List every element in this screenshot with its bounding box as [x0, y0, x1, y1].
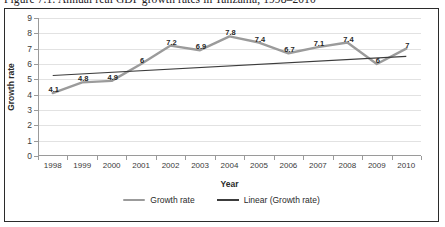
x-axis-tick-label: 2002	[162, 161, 180, 170]
x-axis-tick	[333, 156, 334, 160]
x-axis-tick-label: 2006	[280, 161, 298, 170]
legend-label-growth-rate: Growth rate	[150, 195, 194, 205]
x-axis-tick	[97, 156, 98, 160]
data-label: 4.9	[107, 73, 117, 82]
legend-swatch-linear-icon	[217, 199, 239, 200]
x-axis-tick-label: 2010	[397, 161, 415, 170]
y-axis-tick-label: 9	[27, 13, 32, 23]
growth-rate-line	[53, 36, 407, 93]
y-axis-tick-label: 7	[27, 44, 32, 54]
x-axis-tick	[392, 156, 393, 160]
x-axis-tick	[67, 156, 68, 160]
data-label: 6.7	[284, 45, 294, 54]
x-axis-tick-label: 1998	[44, 161, 62, 170]
data-label: 6	[376, 56, 380, 65]
x-axis-tick-label: 2005	[250, 161, 268, 170]
y-axis-tick-label: 1	[27, 136, 32, 146]
trend-line	[53, 56, 407, 75]
data-label: 4.1	[49, 85, 59, 94]
x-axis-title: Year	[38, 179, 421, 189]
data-label: 7.1	[314, 39, 324, 48]
x-axis-tick-label: 2007	[309, 161, 327, 170]
plot-area: 0123456789 19981999200020012002200320042…	[38, 18, 421, 156]
x-axis-tick	[38, 156, 39, 160]
x-axis-tick-label: 2001	[132, 161, 150, 170]
plot-inner: 0123456789 19981999200020012002200320042…	[38, 18, 421, 156]
legend-item-growth-rate[interactable]: Growth rate	[123, 195, 194, 205]
y-axis-tick-label: 4	[27, 90, 32, 100]
x-axis-tick-label: 1999	[73, 161, 91, 170]
x-axis-tick	[156, 156, 157, 160]
y-axis-tick-label: 2	[27, 120, 32, 130]
chart-frame: Growth rate Year 0123456789 199819992000…	[4, 8, 439, 222]
data-label: 7.2	[166, 38, 176, 47]
legend-swatch-growth-rate-icon	[123, 199, 145, 202]
data-label: 7.4	[343, 35, 353, 44]
x-axis-tick-label: 2000	[103, 161, 121, 170]
x-axis-tick	[274, 156, 275, 160]
x-axis-tick	[303, 156, 304, 160]
data-label: 7	[405, 41, 409, 50]
x-axis-tick-label: 2008	[338, 161, 356, 170]
data-label: 7.4	[255, 35, 265, 44]
x-axis-tick	[421, 156, 422, 160]
data-label: 6.9	[196, 42, 206, 51]
data-label: 7.8	[225, 28, 235, 37]
y-axis-tick-label: 0	[27, 151, 32, 161]
x-axis-tick	[362, 156, 363, 160]
figure-container: Figure 7.1: Annual real GDP growth rates…	[0, 0, 445, 227]
y-axis-tick-label: 5	[27, 74, 32, 84]
x-axis-tick	[215, 156, 216, 160]
data-label: 6	[140, 56, 144, 65]
y-axis-title: Growth rate	[6, 63, 16, 111]
series-lines	[38, 18, 421, 156]
x-axis-tick	[185, 156, 186, 160]
y-axis-tick-label: 3	[27, 105, 32, 115]
data-label: 4.8	[78, 74, 88, 83]
legend-label-linear-growth-rate: Linear (Growth rate)	[244, 195, 320, 205]
y-axis-tick-label: 8	[27, 28, 32, 38]
x-axis-tick	[126, 156, 127, 160]
y-axis-tick-label: 6	[27, 59, 32, 69]
x-axis-tick-label: 2004	[221, 161, 239, 170]
legend-item-linear-growth-rate[interactable]: Linear (Growth rate)	[217, 195, 320, 205]
x-axis-tick-label: 2009	[368, 161, 386, 170]
x-axis-tick	[244, 156, 245, 160]
figure-caption: Figure 7.1: Annual real GDP growth rates…	[4, 0, 434, 5]
chart-legend: Growth rate Linear (Growth rate)	[5, 195, 438, 205]
x-axis-tick-label: 2003	[191, 161, 209, 170]
